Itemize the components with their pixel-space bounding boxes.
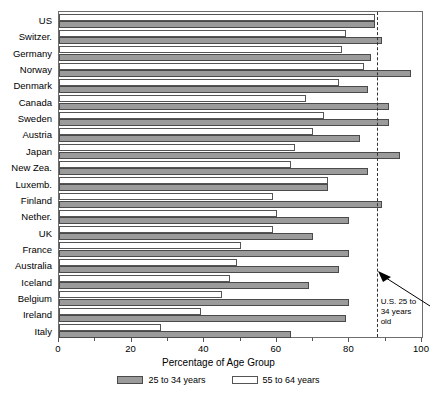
x-tick-0	[58, 338, 59, 342]
bar-55-64-canada	[59, 95, 306, 102]
y-axis-label-italy: Italy	[35, 327, 52, 337]
y-axis-label-norway: Norway	[20, 65, 52, 75]
y-axis-label-canada: Canada	[19, 98, 52, 108]
x-tick-70	[312, 338, 313, 341]
legend-swatch-dark	[117, 376, 143, 384]
bar-25-34-newzea	[59, 168, 368, 175]
bar-25-34-canada	[59, 103, 389, 110]
bar-25-34-ireland	[59, 315, 346, 322]
legend-label: 55 to 64 years	[263, 375, 320, 385]
bar-55-64-sweden	[59, 112, 324, 119]
x-tick-label-40: 40	[198, 343, 209, 354]
bar-25-34-australia	[59, 266, 339, 273]
y-axis-label-austria: Austria	[22, 130, 52, 140]
y-axis-label-australia: Australia	[15, 261, 52, 271]
bar-55-64-denmark	[59, 79, 339, 86]
legend-label: 25 to 34 years	[148, 375, 205, 385]
y-axis-label-newzea: New Zea.	[11, 163, 52, 173]
bar-55-64-ireland	[59, 308, 201, 315]
bar-25-34-japan	[59, 152, 400, 159]
x-tick-label-20: 20	[125, 343, 136, 354]
y-axis-labels: USSwitzer.GermanyNorwayDenmarkCanadaSwed…	[0, 11, 56, 338]
y-axis-label-ireland: Ireland	[23, 310, 52, 320]
x-axis-tick-labels: 020406080100	[0, 343, 437, 355]
bar-55-64-italy	[59, 324, 161, 331]
bar-55-64-norway	[59, 63, 364, 70]
y-axis-label-finland: Finland	[21, 196, 52, 206]
legend-item-2: 55 to 64 years	[232, 375, 320, 385]
x-tick-label-100: 100	[413, 343, 429, 354]
x-tick-40	[203, 338, 204, 342]
y-axis-label-denmark: Denmark	[13, 81, 52, 91]
bar-55-64-france	[59, 242, 241, 249]
bar-55-64-finland	[59, 193, 273, 200]
bar-55-64-uk	[59, 226, 273, 233]
bar-25-34-denmark	[59, 86, 368, 93]
x-tick-50	[240, 338, 241, 341]
bar-25-34-uk	[59, 233, 313, 240]
bar-25-34-finland	[59, 201, 382, 208]
x-tick-30	[167, 338, 168, 341]
y-axis-label-us: US	[39, 16, 52, 26]
bar-55-64-us	[59, 14, 375, 21]
y-axis-label-switzer: Switzer.	[19, 32, 52, 42]
y-axis-label-sweden: Sweden	[18, 114, 52, 124]
bar-55-64-germany	[59, 46, 342, 53]
bar-55-64-nether	[59, 210, 277, 217]
plot-area: U.S. 25 to 34 years old	[58, 11, 423, 338]
bar-25-34-sweden	[59, 119, 389, 126]
bar-25-34-austria	[59, 135, 360, 142]
x-tick-label-0: 0	[55, 343, 60, 354]
y-axis-label-nether: Nether.	[21, 212, 52, 222]
y-axis-label-japan: Japan	[26, 147, 52, 157]
legend-swatch-light	[232, 376, 258, 384]
y-axis-label-belgium: Belgium	[18, 294, 52, 304]
x-tick-90	[385, 338, 386, 341]
bar-25-34-france	[59, 250, 349, 257]
legend-item-1: 25 to 34 years	[117, 375, 205, 385]
x-tick-label-80: 80	[343, 343, 354, 354]
chart-container: USSwitzer.GermanyNorwayDenmarkCanadaSwed…	[0, 0, 437, 399]
bar-25-34-iceland	[59, 282, 309, 289]
bar-55-64-belgium	[59, 291, 222, 298]
x-tick-60	[276, 338, 277, 342]
x-tick-10	[94, 338, 95, 341]
y-axis-label-uk: UK	[39, 229, 52, 239]
bar-25-34-us	[59, 21, 375, 28]
x-tick-label-60: 60	[271, 343, 282, 354]
x-tick-100	[421, 338, 422, 342]
bar-55-64-australia	[59, 259, 237, 266]
y-axis-label-germany: Germany	[13, 49, 52, 59]
bar-25-34-switzer	[59, 37, 382, 44]
bar-25-34-norway	[59, 70, 411, 77]
y-axis-label-france: France	[22, 245, 52, 255]
bar-25-34-belgium	[59, 299, 349, 306]
bar-55-64-austria	[59, 128, 313, 135]
y-axis-label-luxemb: Luxemb.	[16, 180, 52, 190]
bar-25-34-nether	[59, 217, 349, 224]
bar-55-64-switzer	[59, 30, 346, 37]
x-tick-20	[131, 338, 132, 342]
bar-25-34-luxemb	[59, 184, 328, 191]
bar-rows	[59, 12, 422, 337]
bar-25-34-germany	[59, 54, 371, 61]
x-tick-80	[348, 338, 349, 342]
chart-legend: 25 to 34 years55 to 64 years	[0, 375, 437, 385]
bar-55-64-newzea	[59, 161, 291, 168]
bar-55-64-iceland	[59, 275, 230, 282]
x-axis-title: Percentage of Age Group	[0, 357, 437, 368]
bar-55-64-luxemb	[59, 177, 328, 184]
bar-55-64-japan	[59, 144, 295, 151]
annotation-label: U.S. 25 to 34 years old	[381, 297, 422, 327]
y-axis-label-iceland: Iceland	[21, 278, 52, 288]
